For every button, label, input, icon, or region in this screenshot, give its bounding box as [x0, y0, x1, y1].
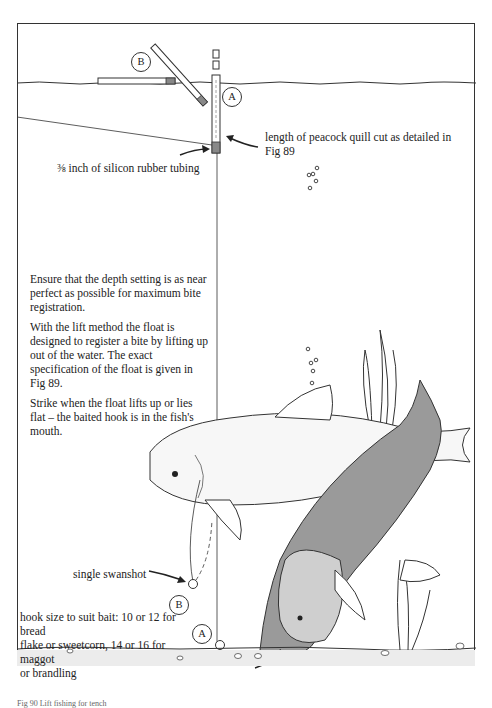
swanshot-b-icon: [189, 580, 198, 589]
note-strike: Strike when the float lifts up or lies f…: [30, 396, 210, 438]
float-a-icon: [212, 50, 220, 153]
fishing-line-slant: [17, 117, 212, 145]
float-b-flat-icon: [98, 78, 175, 84]
swanshot-label: single swanshot: [73, 567, 146, 581]
note-depth: Ensure that the depth setting is as near…: [30, 272, 210, 314]
hook-size-line2: flake or sweetcorn, 14 or 16 for maggot: [20, 638, 200, 666]
figure-caption: Fig 90 Lift fishing for tench: [17, 699, 107, 708]
tubing-label: ⅜ inch of silicon rubber tubing: [57, 161, 199, 175]
hook-size-line1: hook size to suit bait: 10 or 12 for bre…: [20, 610, 200, 638]
quill-label: length of peacock quill cut as detailed …: [265, 130, 465, 158]
hook-size-line3: or brandling: [20, 666, 200, 680]
water-surface: [17, 82, 476, 84]
float-b-tilted-icon: [151, 44, 208, 106]
callout-float-a: A: [222, 87, 242, 107]
arrow-quill: [230, 138, 258, 147]
quill-label-line1: length of peacock quill cut as detailed …: [265, 130, 465, 144]
hook-size-label: hook size to suit bait: 10 or 12 for bre…: [20, 610, 200, 680]
note-lift-method: With the lift method the float is design…: [30, 320, 210, 390]
quill-label-line2: Fig 89: [265, 144, 465, 158]
notes-block: Ensure that the depth setting is as near…: [30, 272, 210, 444]
callout-float-b: B: [131, 52, 151, 72]
